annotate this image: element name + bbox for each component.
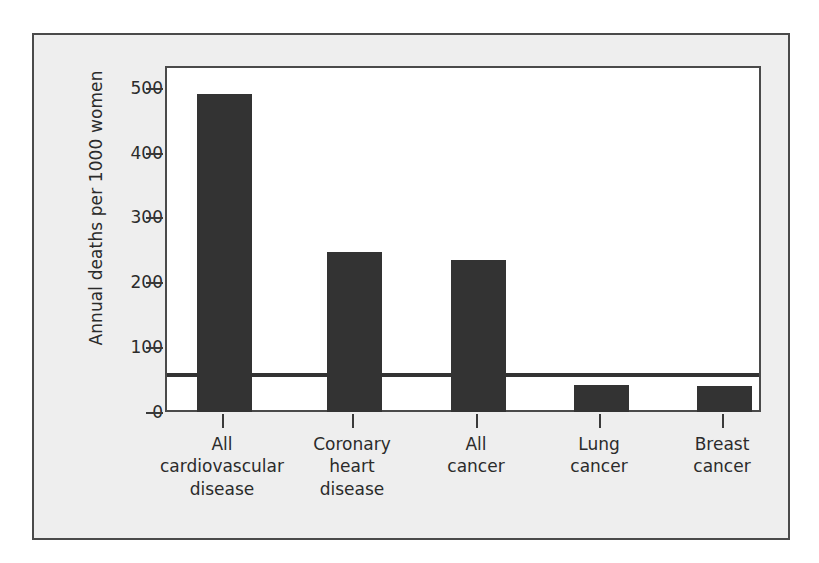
x-axis-category-line: cardiovascular [147,455,297,477]
y-tick-mark [146,88,163,90]
x-tick-mark [599,414,601,428]
x-axis-category-label: Breastcancer [647,433,797,478]
chart-panel: Annual deaths per 1000 women 01002003004… [32,33,790,540]
y-tick-mark [146,153,163,155]
x-axis-category-line: disease [277,478,427,500]
x-tick-mark [476,414,478,428]
bar [697,386,752,412]
x-axis-baseline [167,373,759,377]
bar [451,260,506,412]
x-tick-mark [722,414,724,428]
y-tick-mark [146,412,163,414]
plot-inner [167,68,759,410]
y-tick-mark [146,347,163,349]
y-tick-mark [146,217,163,219]
x-axis-category-label: Allcardiovasculardisease [147,433,297,500]
figure-canvas: Annual deaths per 1000 women 01002003004… [0,0,819,563]
bar [197,94,252,412]
x-axis-category-line: cancer [647,455,797,477]
x-axis-category-line: disease [147,478,297,500]
x-tick-mark [222,414,224,428]
x-axis-category-line: All [147,433,297,455]
x-axis-category-line: Breast [647,433,797,455]
plot-area [165,66,761,412]
bar [574,385,629,412]
y-tick-mark [146,282,163,284]
x-tick-mark [352,414,354,428]
bar [327,252,382,412]
